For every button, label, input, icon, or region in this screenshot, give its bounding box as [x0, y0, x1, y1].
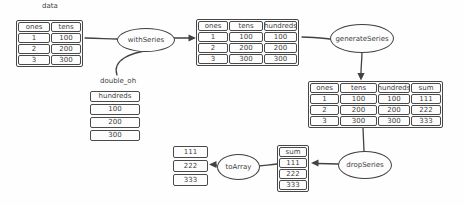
table-cell: 111	[279, 158, 307, 168]
table-cell: 200	[90, 117, 140, 128]
arrowhead-down-icon	[357, 73, 364, 81]
table-cell: 333	[279, 180, 307, 190]
node-withseries: withSeries	[117, 28, 175, 52]
table-header-cell: ones	[18, 22, 50, 32]
with-hundreds-table: ones tens hundreds 1 100 100 2 200 200 3…	[196, 19, 299, 66]
table-header-cell: tens	[51, 22, 81, 32]
data-table: ones tens 1 100 2 200 3 300	[16, 20, 83, 67]
table-cell: 100	[340, 94, 377, 104]
table-cell: 3	[18, 55, 50, 65]
node-toarray: toArray	[217, 154, 260, 180]
array-values-table: 111 222 333	[173, 146, 208, 186]
table-cell: 200	[340, 105, 377, 115]
table-cell: 200	[378, 105, 410, 115]
table-cell: 222	[279, 169, 307, 179]
table-header-cell: ones	[310, 83, 339, 93]
table-cell: 3	[310, 116, 339, 126]
arrowhead-right-icon	[189, 35, 197, 42]
data-table-label: data	[42, 2, 58, 10]
table-cell: 100	[90, 104, 140, 115]
table-header-cell: sum	[279, 147, 307, 157]
table-header-cell: hundreds	[90, 91, 140, 102]
table-header-cell: ones	[198, 21, 228, 31]
node-generateseries: generateSeries	[330, 24, 394, 53]
connector-table-to-dropseries	[363, 128, 364, 151]
node-dropseries: dropSeries	[338, 151, 392, 179]
double-oh-table: hundreds 100 200 300	[90, 91, 140, 141]
table-cell: 300	[90, 130, 140, 141]
table-cell: 2	[310, 105, 339, 115]
table-cell: 300	[229, 54, 263, 64]
table-cell: 300	[340, 116, 377, 126]
table-cell: 2	[198, 43, 228, 53]
table-cell: 1	[18, 33, 50, 43]
table-cell: 300	[378, 116, 410, 126]
connector-sum-to-toarray	[258, 164, 277, 166]
table-cell: 200	[264, 43, 297, 53]
connector-table-to-generateseries	[302, 37, 330, 39]
with-sum-table: ones tens hundreds sum 1 100 100 111 2 2…	[308, 81, 443, 128]
arrowhead-left-icon	[209, 161, 217, 168]
double-oh-label: double_oh	[100, 77, 136, 85]
connector-doubleoh-to-withseries	[116, 50, 150, 75]
table-cell: 100	[378, 94, 410, 104]
table-cell: 111	[173, 146, 208, 158]
table-cell: 200	[51, 44, 81, 54]
table-cell: 2	[18, 44, 50, 54]
table-cell: 333	[173, 174, 208, 186]
table-cell: 1	[310, 94, 339, 104]
table-header-cell: tens	[340, 83, 377, 93]
arrowhead-left-icon	[311, 160, 319, 167]
table-cell: 100	[51, 33, 81, 43]
table-cell: 3	[198, 54, 228, 64]
table-cell: 100	[229, 32, 263, 42]
diagram-canvas: data double_oh ones tens 1 100 2 200 3 3…	[0, 0, 465, 206]
table-cell: 300	[264, 54, 297, 64]
table-header-cell: sum	[411, 83, 441, 93]
table-cell: 222	[173, 160, 208, 172]
table-cell: 111	[411, 94, 441, 104]
table-cell: 333	[411, 116, 441, 126]
connector-generateseries-to-table	[361, 51, 362, 73]
table-cell: 1	[198, 32, 228, 42]
table-cell: 200	[229, 43, 263, 53]
connector-data-to-withseries	[85, 38, 117, 39]
connector-dropseries-to-sum	[318, 164, 338, 165]
sum-series-table: sum 111 222 333	[277, 145, 309, 192]
table-cell: 100	[264, 32, 297, 42]
table-cell: 300	[51, 55, 81, 65]
table-header-cell: hundreds	[378, 83, 410, 93]
table-header-cell: hundreds	[264, 21, 297, 31]
table-header-cell: tens	[229, 21, 263, 31]
table-cell: 222	[411, 105, 441, 115]
